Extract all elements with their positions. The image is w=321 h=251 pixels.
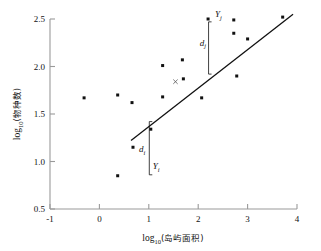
data-point — [232, 32, 235, 35]
data-point — [281, 16, 284, 19]
x-axis-title-paren: (岛屿面积) — [161, 233, 204, 243]
data-point — [161, 95, 164, 98]
data-point — [246, 37, 249, 40]
x-tick-label-1: 0 — [97, 214, 102, 224]
data-point — [149, 128, 152, 131]
data-point — [200, 96, 203, 99]
data-point — [181, 58, 184, 61]
y-axis-title-paren: (物种数) — [12, 88, 22, 122]
data-point — [131, 101, 134, 104]
data-point — [207, 18, 210, 21]
y-axis-title-base: log — [12, 128, 22, 140]
y-tick-label-1: 1.0 — [34, 157, 46, 167]
x-tick-label-2: 1 — [147, 214, 152, 224]
x-tick-label-3: 2 — [196, 214, 201, 224]
x-axis-title-base: log — [142, 233, 154, 243]
x-tick-label-0: -1 — [46, 214, 54, 224]
data-point — [161, 64, 164, 67]
x-tick-label-4: 3 — [245, 214, 250, 224]
data-point — [116, 174, 119, 177]
data-point — [131, 146, 134, 149]
x-axis-title: log10(岛屿面积) — [142, 233, 203, 245]
data-point — [235, 75, 238, 78]
data-point — [116, 94, 119, 97]
y-tick-label-2: 1.5 — [34, 109, 46, 119]
y-tick-label-3: 2.0 — [34, 62, 46, 72]
y-axis-title: log10(物种数) — [12, 88, 24, 140]
data-point — [232, 18, 235, 21]
data-point — [83, 96, 86, 99]
data-point — [182, 77, 185, 80]
x-tick-label-5: 4 — [295, 214, 300, 224]
y-tick-label-4: 2.5 — [34, 14, 46, 24]
y-tick-label-0: 0.5 — [34, 204, 46, 214]
scatter-chart: 0.5 1.0 1.5 2.0 2.5 -1 0 1 2 3 4 log10(岛… — [0, 0, 321, 251]
